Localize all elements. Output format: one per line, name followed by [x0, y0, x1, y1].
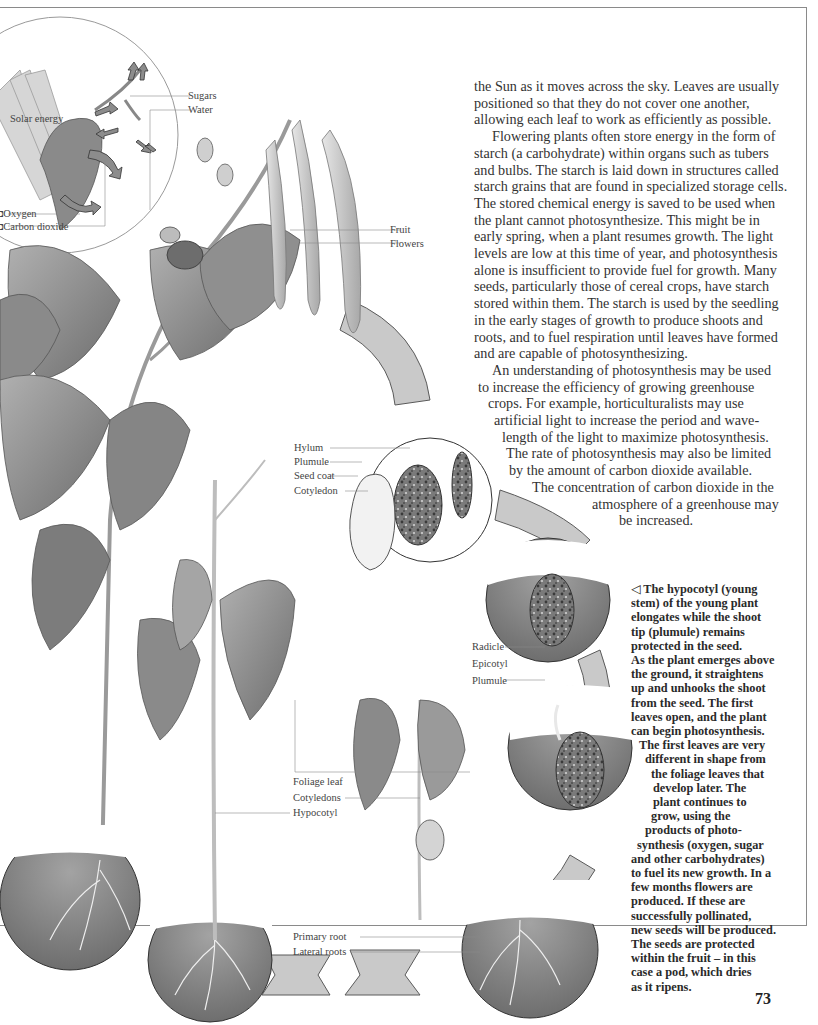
text-line: early spring, when a plant resumes growt…: [474, 228, 774, 245]
label-lateral-roots: Lateral roots: [293, 946, 346, 958]
label-seed-coat: Seed coat: [294, 470, 335, 482]
label-cotyledons: Cotyledons: [293, 792, 341, 804]
label-fruit: Fruit: [390, 224, 410, 236]
label-hypocotyl: Hypocotyl: [293, 807, 337, 819]
page-number: 73: [755, 990, 771, 1008]
caption-line: the foliage leaves that: [631, 767, 807, 781]
text-line: starch (a carbohydrate) within organs su…: [474, 145, 774, 162]
paragraph-1: the Sun as it moves across the sky. Leav…: [474, 78, 774, 128]
caption-line: tip (plumule) remains: [631, 625, 807, 639]
caption-line: The seeds are protected: [631, 937, 807, 951]
text-line: An understanding of photosynthesis may b…: [474, 362, 774, 379]
text-line: The rate of photosynthesis may also be l…: [474, 445, 774, 462]
caption-line: stem) of the young plant: [631, 596, 807, 610]
caption-line: few months flowers are: [631, 880, 807, 894]
text-line: artificial light to increase the period …: [474, 412, 774, 429]
label-epicotyl: Epicotyl: [472, 658, 508, 670]
label-flowers: Flowers: [390, 238, 424, 250]
label-oxygen: ◘Oxygen: [0, 208, 37, 220]
caption-line: new seeds will be produced.: [631, 923, 807, 937]
text-line: by the amount of carbon dioxide availabl…: [474, 462, 774, 479]
caption-marker-icon: ◁: [631, 582, 640, 596]
label-plumule-seed: Plumule: [294, 456, 329, 468]
caption-line: protected in the seed.: [631, 639, 807, 653]
text-line: stored within them. The starch is used b…: [474, 295, 774, 312]
text-line: crops. For example, horticulturalists ma…: [474, 395, 774, 412]
text-line: alone is insufficient to provide fuel fo…: [474, 262, 774, 279]
label-carbon-dioxide: ◘Carbon dioxide: [0, 221, 68, 233]
caption-line: grow, using the: [631, 809, 807, 823]
label-water: Water: [188, 104, 213, 116]
text-line: the plant cannot photosynthesize. This m…: [474, 212, 774, 229]
caption-line: and other carbohydrates): [631, 852, 807, 866]
text-line: be increased.: [474, 512, 774, 529]
text-line: to increase the efficiency of growing gr…: [474, 379, 774, 396]
caption-line: case a pod, which dries: [631, 965, 807, 979]
text-line: in the early stages of growth to produce…: [474, 312, 774, 329]
caption-line: synthesis (oxygen, sugar: [631, 838, 807, 852]
germination-stage: [486, 538, 610, 662]
text-line: starch grains that are found in speciali…: [474, 178, 774, 195]
caption-line: produced. If these are: [631, 894, 807, 908]
text-line: The stored chemical energy is saved to b…: [474, 195, 774, 212]
text-line: the Sun as it moves across the sky. Leav…: [474, 78, 774, 95]
caption-line: The first leaves are very: [631, 738, 807, 752]
label-foliage-leaf: Foliage leaf: [293, 776, 343, 788]
text-line: The concentration of carbon dioxide in t…: [474, 479, 774, 496]
caption-line: different in shape from: [631, 752, 807, 766]
caption-line: successfully pollinated,: [631, 909, 807, 923]
caption-line: As the plant emerges above: [631, 653, 807, 667]
text-line: and bulbs. The starch is laid down in st…: [474, 162, 774, 179]
body-text: the Sun as it moves across the sky. Leav…: [474, 78, 774, 529]
caption-line: plant continues to: [631, 795, 807, 809]
label-primary-root: Primary root: [293, 931, 346, 943]
label-sugars: Sugars: [188, 90, 217, 102]
text-line: and are capable of photosynthesizing.: [474, 345, 774, 362]
label-solar-energy: Solar energy: [10, 113, 63, 125]
figure-caption: ◁ The hypocotyl (young stem) of the youn…: [631, 582, 807, 994]
caption-line: ◁ The hypocotyl (young: [631, 582, 807, 596]
text-line: length of the light to maximize photosyn…: [474, 429, 774, 446]
text-line: Flowering plants often store energy in t…: [474, 128, 774, 145]
paragraph-2: Flowering plants often store energy in t…: [474, 128, 774, 362]
caption-line: up and unhooks the shoot: [631, 681, 807, 695]
text-line: atmosphere of a greenhouse may: [474, 496, 774, 513]
text-line: roots, and to fuel respiration until lea…: [474, 329, 774, 346]
emergence-stage: [508, 685, 632, 810]
text-line: positioned so that they do not cover one…: [474, 95, 774, 112]
caption-line: elongates while the shoot: [631, 610, 807, 624]
caption-line: develop later. The: [631, 781, 807, 795]
label-hylum: Hylum: [294, 442, 323, 454]
caption-line: from the seed. The first: [631, 696, 807, 710]
caption-line: leaves open, and the plant: [631, 710, 807, 724]
label-cotyledon: Cotyledon: [294, 485, 338, 497]
caption-line: within the fruit – in this: [631, 951, 807, 965]
caption-line: the ground, it straightens: [631, 667, 807, 681]
text-line: levels are low at this time of year, and…: [474, 245, 774, 262]
paragraph-3: An understanding of photosynthesis may b…: [474, 362, 774, 529]
label-plumule-germination: Plumule: [472, 675, 507, 687]
caption-line: to fuel its new growth. In a: [631, 866, 807, 880]
text-line: allowing each leaf to work as efficientl…: [474, 111, 774, 128]
caption-line: as it ripens.: [631, 980, 807, 994]
caption-line: can begin photosynthesis.: [631, 724, 807, 738]
seed-stage: [350, 438, 492, 570]
text-line: seeds, particularly those of cereal crop…: [474, 278, 774, 295]
label-radicle: Radicle: [472, 641, 504, 653]
caption-line: products of photo-: [631, 823, 807, 837]
